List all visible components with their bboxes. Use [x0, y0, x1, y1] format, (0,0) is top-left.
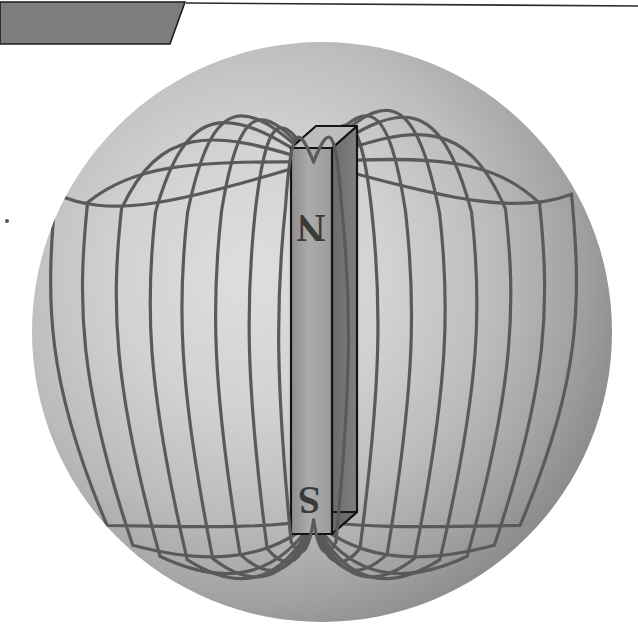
scene-canvas: NS — [0, 0, 638, 640]
top-left-parallelogram — [0, 2, 185, 44]
magnetic-field-illustration: NS N S Magnetic field of a bar magnet — [0, 0, 638, 640]
magnet-side-face — [332, 126, 357, 534]
magnet-front-face — [291, 148, 332, 534]
stray-dot — [5, 219, 9, 223]
south-pole-label: S — [298, 478, 320, 523]
north-pole-label: N — [296, 206, 325, 251]
header-rule — [186, 3, 638, 6]
